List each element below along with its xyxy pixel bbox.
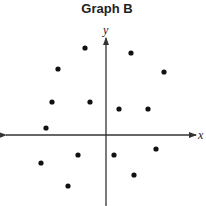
data-point	[128, 50, 133, 55]
data-point	[161, 69, 166, 74]
data-points	[38, 45, 166, 188]
data-point	[49, 99, 54, 104]
data-point	[87, 99, 92, 104]
data-point	[116, 106, 121, 111]
y-axis-label: y	[102, 23, 109, 37]
data-point	[131, 172, 136, 177]
x-axis-label: x	[197, 128, 204, 142]
data-point	[145, 106, 150, 111]
data-point	[65, 183, 70, 188]
data-point	[55, 66, 60, 71]
data-point	[153, 146, 158, 151]
data-point	[82, 45, 87, 50]
scatter-plot: x y	[0, 0, 206, 206]
data-point	[75, 152, 80, 157]
data-point	[111, 152, 116, 157]
data-point	[38, 160, 43, 165]
data-point	[43, 125, 48, 130]
